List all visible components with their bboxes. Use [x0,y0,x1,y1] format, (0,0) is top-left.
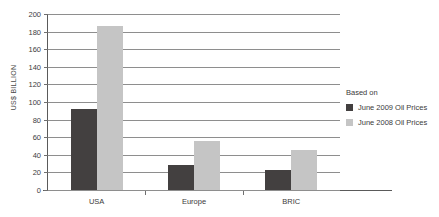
bar-europe-series0 [168,165,194,190]
y-tick-label: 40 [33,150,41,159]
bar-usa-series0 [71,109,97,190]
legend-swatch-icon [346,104,353,111]
gridline [48,32,340,33]
legend-title: Based on [346,88,439,97]
gridline [48,190,340,191]
y-tick-mark [44,32,48,33]
y-tick-label: 20 [33,168,41,177]
y-tick-label: 100 [28,98,41,107]
y-tick-label: 160 [28,45,41,54]
legend-label: June 2008 Oil Prices [358,118,427,127]
y-tick-mark [44,67,48,68]
bar-bric-series1 [291,150,317,190]
y-tick-label: 180 [28,27,41,36]
gridline [48,67,340,68]
gridline [48,14,340,15]
bar-bric-series0 [265,170,291,190]
gridline [48,84,340,85]
x-category-label-usa: USA [89,197,104,206]
y-tick-mark [44,190,48,191]
gridline [48,102,340,103]
y-tick-label: 140 [28,62,41,71]
y-tick-mark [44,49,48,50]
y-tick-label: 200 [28,10,41,19]
legend-swatch-icon [346,119,353,126]
y-tick-mark [44,137,48,138]
y-tick-mark [44,120,48,121]
y-tick-mark [44,84,48,85]
x-category-label-bric: BRIC [282,197,300,206]
bar-chart: US$ BILLION 200180160140120100806040200U… [0,0,439,217]
legend-item-series0: June 2009 Oil Prices [346,103,439,112]
legend-label: June 2009 Oil Prices [358,103,427,112]
y-tick-label: 0 [37,186,41,195]
gridline [48,49,340,50]
y-tick-mark [44,172,48,173]
x-category-label-europe: Europe [182,197,206,206]
bar-europe-series1 [194,141,220,190]
y-tick-mark [44,102,48,103]
y-tick-mark [44,155,48,156]
y-tick-label: 80 [33,115,41,124]
y-axis-title: US$ BILLION [10,43,17,133]
chart-legend: Based on June 2009 Oil PricesJune 2008 O… [346,88,439,133]
plot-area: 200180160140120100806040200USAEuropeBRIC [48,14,340,190]
y-tick-label: 60 [33,133,41,142]
y-tick-mark [44,14,48,15]
legend-item-series1: June 2008 Oil Prices [346,118,439,127]
y-tick-label: 120 [28,80,41,89]
x-axis-separator [145,191,146,195]
bar-usa-series1 [97,26,123,190]
x-axis-separator [243,191,244,195]
